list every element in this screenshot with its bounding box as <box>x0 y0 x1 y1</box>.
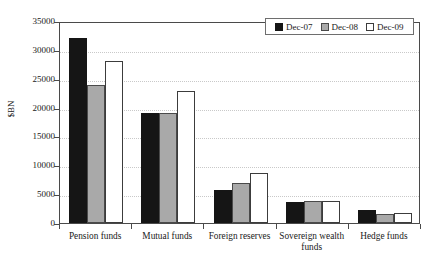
bar <box>286 202 304 223</box>
bar <box>376 214 394 223</box>
x-tick-mark <box>348 224 349 229</box>
legend-item: Dec-09 <box>366 22 404 32</box>
y-tick-label: 15000 <box>9 132 55 141</box>
x-tick-mark <box>131 224 132 229</box>
x-category-label: Hedge funds <box>348 231 420 242</box>
y-tick-label: 5000 <box>9 190 55 199</box>
legend-item: Dec-07 <box>275 22 313 32</box>
bar <box>105 61 123 223</box>
plot-area <box>59 22 420 224</box>
legend-label: Dec-09 <box>377 22 404 32</box>
y-tick-label: 10000 <box>9 161 55 170</box>
bar <box>69 38 87 223</box>
y-tick-label: 20000 <box>9 104 55 113</box>
y-tick-label: 30000 <box>9 46 55 55</box>
bar <box>322 201 340 223</box>
bar <box>250 173 268 223</box>
legend-swatch-icon <box>366 23 374 31</box>
y-tick-label: 25000 <box>9 75 55 84</box>
x-tick-mark <box>203 224 204 229</box>
x-tick-mark <box>420 224 421 229</box>
gridline <box>60 52 419 53</box>
y-tick-label: 0 <box>9 219 55 228</box>
bar <box>358 210 376 223</box>
bar <box>177 91 195 223</box>
legend-label: Dec-07 <box>286 22 313 32</box>
legend-swatch-icon <box>321 23 329 31</box>
legend-label: Dec-08 <box>332 22 359 32</box>
x-tick-mark <box>276 224 277 229</box>
bar-chart-figure: $BN 05000100001500020000250003000035000 … <box>0 0 437 259</box>
x-category-label: Foreign reserves <box>203 231 275 242</box>
bar <box>232 183 250 223</box>
x-category-label: Mutual funds <box>131 231 203 242</box>
legend-item: Dec-08 <box>321 22 359 32</box>
chart-legend: Dec-07Dec-08Dec-09 <box>265 18 414 35</box>
bar <box>394 213 412 223</box>
x-category-label: Pension funds <box>59 231 131 242</box>
x-category-label: Sovereign wealthfunds <box>276 231 348 253</box>
y-tick-label: 35000 <box>9 17 55 26</box>
bar <box>141 113 159 223</box>
legend-swatch-icon <box>275 23 283 31</box>
x-tick-mark <box>59 224 60 229</box>
bar <box>214 190 232 223</box>
bar <box>304 201 322 223</box>
bar <box>159 113 177 223</box>
bar <box>87 85 105 224</box>
